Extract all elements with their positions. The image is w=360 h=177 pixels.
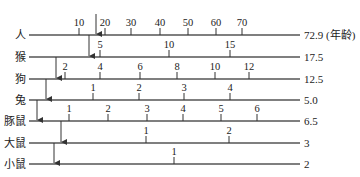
age-tick-label: 2	[62, 61, 67, 72]
species-row: 小鼠21	[4, 143, 310, 171]
species-label: 兔	[15, 93, 26, 107]
species-row: 猴17.551015	[15, 35, 324, 64]
age-tick-label: 4	[97, 61, 103, 72]
age-tick-label: 30	[126, 17, 137, 28]
age-tick-label: 15	[225, 39, 236, 50]
age-tick-label: 1	[171, 146, 176, 157]
lifespan-label: 6.5	[304, 115, 318, 127]
age-tick-label: 8	[174, 61, 179, 72]
age-tick-label: 4	[180, 103, 186, 114]
lifespan-label: 12.5	[304, 73, 324, 85]
species-label: 豚鼠	[4, 114, 26, 128]
age-tick-label: 10	[164, 39, 175, 50]
age-tick-label: 6	[137, 61, 142, 72]
species-row: 豚鼠6.5123456	[4, 100, 318, 128]
lifespan-label: 5.0	[304, 94, 318, 106]
age-tick-label: 1	[66, 103, 71, 114]
species-label: 狗	[15, 73, 26, 86]
species-row: 兔5.01234	[15, 79, 318, 107]
age-tick-label: 50	[183, 17, 194, 28]
lifespan-label: 17.5	[304, 51, 324, 63]
age-tick-label: 70	[237, 17, 248, 28]
lifespan-label: 72.9 (年龄)	[304, 28, 356, 42]
species-label: 小鼠	[4, 157, 26, 171]
species-row: 人72.9 (年龄)10203040506070	[15, 14, 356, 42]
age-tick-label: 60	[211, 17, 222, 28]
age-tick-label: 4	[227, 82, 233, 93]
age-tick-label: 20	[100, 17, 111, 28]
age-tick-label: 3	[144, 103, 149, 114]
species-row: 狗12.524681012	[15, 57, 324, 86]
age-tick-label: 2	[226, 125, 231, 136]
age-tick-label: 10	[210, 61, 221, 72]
age-tick-label: 2	[136, 82, 141, 93]
age-tick-label: 5	[218, 103, 223, 114]
age-comparison-diagram: 人72.9 (年龄)10203040506070猴17.551015狗12.52…	[0, 0, 360, 177]
age-tick-label: 1	[143, 125, 148, 136]
lifespan-label: 3	[304, 137, 310, 149]
age-tick-label: 5	[97, 39, 102, 50]
species-label: 大鼠	[4, 136, 26, 150]
age-tick-label: 12	[244, 61, 255, 72]
age-tick-label: 2	[105, 103, 110, 114]
age-tick-label: 6	[254, 103, 259, 114]
lifespan-label: 2	[304, 158, 310, 170]
age-tick-label: 3	[181, 82, 186, 93]
age-tick-label: 1	[90, 82, 95, 93]
age-tick-label: 10	[74, 17, 85, 28]
species-label: 猴	[15, 50, 26, 64]
species-label: 人	[15, 29, 26, 42]
species-row: 大鼠312	[4, 121, 310, 150]
age-tick-label: 40	[155, 17, 166, 28]
